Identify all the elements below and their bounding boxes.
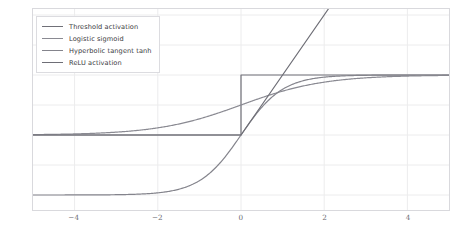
activation-functions-figure: 2.01.51.00.50.0−0.5−1.0 −4−2024 Threshol… <box>0 0 458 241</box>
legend-item[interactable]: Hyperbolic tangent tanh <box>42 45 152 56</box>
legend-item-label: Hyperbolic tangent tanh <box>69 47 152 55</box>
x-tick-label: −4 <box>68 213 79 222</box>
legend-item-label: Logistic sigmoid <box>69 35 124 43</box>
legend-item-label: ReLU activation <box>69 59 122 67</box>
legend-line-icon <box>42 26 63 27</box>
x-tick-label: −2 <box>152 213 163 222</box>
legend-line-icon <box>42 38 63 39</box>
legend-item[interactable]: ReLU activation <box>42 57 152 68</box>
legend-line-icon <box>42 50 63 51</box>
legend-item[interactable]: Threshold activation <box>42 21 152 32</box>
x-tick-label: 0 <box>239 213 244 222</box>
chart-legend[interactable]: Threshold activationLogistic sigmoidHype… <box>36 16 160 73</box>
x-tick-label: 4 <box>406 213 411 222</box>
legend-item-label: Threshold activation <box>69 23 138 31</box>
x-tick-label: 2 <box>322 213 327 222</box>
legend-item[interactable]: Logistic sigmoid <box>42 33 152 44</box>
legend-line-icon <box>42 62 63 63</box>
